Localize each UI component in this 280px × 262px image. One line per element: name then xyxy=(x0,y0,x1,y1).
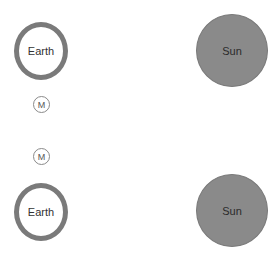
sun-bottom-label: Sun xyxy=(222,205,242,217)
sun-top: Sun xyxy=(196,14,268,87)
sun-bottom: Sun xyxy=(196,174,268,247)
moon-bottom: M xyxy=(33,148,50,165)
earth-bottom: Earth xyxy=(14,183,68,241)
moon-top: M xyxy=(33,96,50,113)
moon-bottom-label: M xyxy=(38,152,46,162)
earth-top: Earth xyxy=(14,22,68,80)
earth-top-label: Earth xyxy=(28,45,54,57)
moon-top-label: M xyxy=(38,100,46,110)
diagram-canvas: Earth Sun M M Earth Sun xyxy=(0,0,280,262)
sun-top-label: Sun xyxy=(222,45,242,57)
earth-bottom-label: Earth xyxy=(28,206,54,218)
